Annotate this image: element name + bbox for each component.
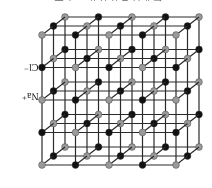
sodium-ion [173, 32, 180, 39]
chloride-ion [173, 64, 180, 71]
chloride-ion [173, 129, 180, 136]
sodium-ion [106, 97, 113, 104]
chloride-ion [39, 129, 46, 136]
chloride-ion [106, 64, 113, 71]
sodium-ion [106, 162, 113, 169]
sodium-ion [139, 64, 146, 71]
sodium-ion [39, 97, 46, 104]
sodium-ion [39, 32, 46, 39]
chloride-ion [39, 64, 46, 71]
chloride-ion [139, 97, 146, 104]
sodium-ion [39, 162, 46, 169]
chloride-ion [72, 97, 79, 104]
sodium-ion [106, 32, 113, 39]
chloride-ion [139, 32, 146, 39]
sodium-ion-label: Na⁺ [22, 91, 39, 102]
sodium-ion [72, 129, 79, 136]
chloride-ion [72, 32, 79, 39]
chloride-ion-label: Cl⁻ [24, 62, 38, 73]
sodium-ion [139, 129, 146, 136]
sodium-ion [72, 64, 79, 71]
chloride-ion [72, 162, 79, 169]
sodium-ion [173, 162, 180, 169]
nacl-lattice-figure: 氯化钠晶体结构示意图 Cl⁻ Na⁺ [0, 0, 212, 188]
sodium-ion [173, 97, 180, 104]
chloride-ion [139, 162, 146, 169]
chloride-ion [106, 129, 113, 136]
